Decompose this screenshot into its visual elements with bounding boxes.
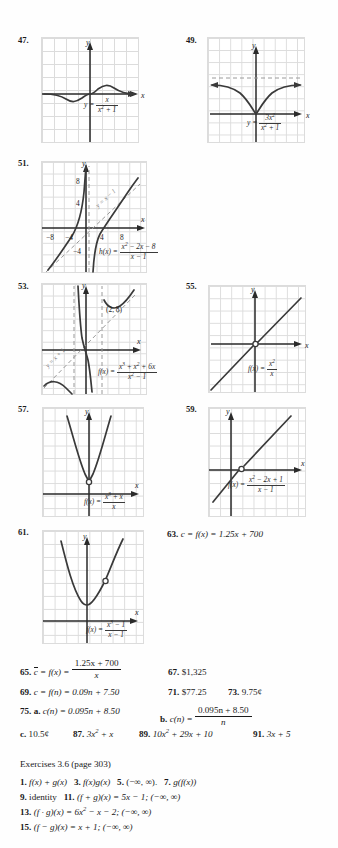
axis-label-y-47: y <box>85 38 90 47</box>
problem-53-number: 53. <box>18 275 28 293</box>
frac-den-49: x2 + 1 <box>259 124 281 133</box>
problem-53-equation: f(x) = x3 + x2 + 6xx2 − 1 <box>98 363 157 381</box>
answer-75b: b. c(n) = 0.095n + 8.50n <box>160 705 252 729</box>
problem-55-number: 55. <box>186 275 196 293</box>
answer-key-page: 47. x y y = xx2 + 1 49. x <box>0 0 338 848</box>
problem-57-equation: f(x) = x3 + xx <box>84 493 125 511</box>
axis-label-x-47: x <box>140 91 145 100</box>
frac-num-75b: 0.095n + 8.50 <box>195 705 252 717</box>
problem-61-number: 61. <box>18 521 28 539</box>
problem-59-equation: f(x) = x2 − 2x + 1x − 1 <box>228 476 285 494</box>
answer-75c: c. 10.5¢ <box>20 730 49 739</box>
graph-59-svg: x y <box>209 408 305 516</box>
answer-65: 65. c = f(x) = 1.25x + 700x <box>20 658 121 682</box>
frac-den-53: x2 − 1 <box>117 373 157 382</box>
frac-den-57: x <box>103 503 125 512</box>
frac-den-61: x − 1 <box>105 631 127 640</box>
hole-marker-57 <box>86 479 91 484</box>
axis-label-x-53: x <box>136 337 141 346</box>
section-heading: Exercises 3.6 (page 303) <box>20 759 111 769</box>
axis-label-x-57: x <box>134 481 139 490</box>
axis-label-x-59: x <box>300 459 305 468</box>
frac-num-65: 1.25x + 700 <box>72 658 122 670</box>
axis-label-y-53: y <box>81 281 86 290</box>
xtick-8-51: 8 <box>120 233 124 242</box>
axis-label-x-49: x <box>305 111 310 120</box>
frac-den-55: x <box>267 370 277 379</box>
ytick-8-51: 8 <box>76 177 80 186</box>
frac-den-59: x − 1 <box>247 486 285 495</box>
frac-den-51: x − 1 <box>120 253 158 262</box>
problem-59-number: 59. <box>186 398 196 416</box>
axis-label-y-59: y <box>225 407 230 416</box>
problem-55-equation: f(x) = x2x <box>248 360 277 378</box>
problem-49-number: 49. <box>186 29 196 47</box>
ytick-4-51: 4 <box>76 199 80 208</box>
problem-47-graph: x y <box>41 37 139 143</box>
answer-67: 67. $1,325 <box>168 668 207 677</box>
problem-57-number: 57. <box>18 398 28 416</box>
hole-marker-61 <box>103 578 108 583</box>
point-label-53: (2, 8) <box>106 305 123 314</box>
answer-73: 73. 9.75¢ <box>228 688 262 697</box>
axis-label-x-55: x <box>304 341 309 350</box>
section-line-2: 9. identity 11. (f + g)(x) = 5x − 1; (−∞… <box>20 793 180 802</box>
problem-51-equation: h(x) = x2 − 2x − 8x − 1 <box>99 243 158 261</box>
frac-den-47: x2 + 1 <box>96 106 118 115</box>
hole-marker-59 <box>239 466 244 471</box>
axis-label-y-51: y <box>81 159 86 168</box>
xtick-4-51: 4 <box>100 233 104 242</box>
section-line-1: 1. f(x) + g(x) 3. f(x)g(x) 5. (−∞, ∞). 7… <box>20 778 196 787</box>
frac-den-75b: n <box>195 717 252 728</box>
answer-63: 63. c = f(x) = 1.25x + 700 <box>167 530 263 539</box>
axis-label-x-61: x <box>134 608 139 617</box>
graph-47-svg: x y <box>42 38 138 142</box>
xtick-neg8-51: −8 <box>46 233 54 242</box>
answer-75a: 75. a. c(n) = 0.095n + 8.50 <box>20 707 120 716</box>
axis-label-x-51: x <box>140 215 145 224</box>
problem-49-equation: y = 3x2x2 + 1 <box>247 114 281 132</box>
ytick-neg4-51: −4 <box>73 247 81 256</box>
answer-71: 71. $77.25 <box>168 688 207 697</box>
section-line-4: 15. (f − g)(x) = x + 1; (−∞, ∞) <box>20 823 133 832</box>
frac-den-65: x <box>72 670 122 681</box>
problem-47-number: 47. <box>18 29 28 47</box>
answer-89: 89. 10x2 + 29x + 10 <box>139 730 213 739</box>
problem-47-equation: y = xx2 + 1 <box>84 96 118 114</box>
problem-51-number: 51. <box>18 152 28 170</box>
answer-91: 91. 3x + 5 <box>253 730 290 739</box>
asymptote-label-51: y = x − 1 <box>93 187 117 209</box>
hole-marker-55 <box>253 341 258 346</box>
axis-label-y-49: y <box>251 41 256 50</box>
answer-87: 87. 3x2 + x <box>73 730 113 739</box>
problem-59-graph: x y <box>208 407 306 517</box>
axis-label-y-61: y <box>82 532 87 541</box>
axis-label-y-57: y <box>84 407 89 416</box>
answer-69: 69. c = f(n) = 0.09n + 7.50 <box>20 688 119 697</box>
section-line-3: 13. (f · g)(x) = 6x2 − x − 2; (−∞, ∞) <box>20 808 151 817</box>
axis-label-y-55: y <box>250 285 255 294</box>
xtick-neg4-51: −4 <box>65 233 73 242</box>
problem-61-equation: f(x) = x3 − 1x − 1 <box>86 621 127 639</box>
